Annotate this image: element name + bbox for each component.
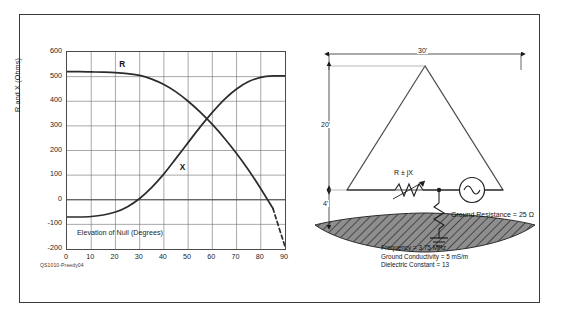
y-tick-label: 400	[22, 95, 62, 104]
x-tick-label: 20	[101, 252, 127, 261]
y-tick-label: 100	[22, 169, 62, 178]
curve-resistance-dashed	[273, 208, 285, 246]
y-axis-title: R and X (Ohms)	[13, 58, 22, 112]
figure-root: 6005004003002001000-100-200 010203040506…	[0, 0, 561, 318]
curve-reactance	[67, 76, 285, 217]
y-tick-label: 300	[22, 120, 62, 129]
impedance-label: R ± jX	[394, 169, 413, 176]
y-tick-label: 200	[22, 145, 62, 154]
figure-credit-code: QS1010-Preedy04	[40, 262, 84, 268]
dimension-label-height: 20'	[320, 121, 331, 128]
specification-text: Frequency = 3.75 MHz Ground Conductivity…	[381, 244, 468, 270]
grid-lines	[67, 52, 285, 249]
x-tick-label: 40	[150, 252, 176, 261]
x-tick-label: 90	[271, 252, 297, 261]
x-tick-label: 10	[77, 252, 103, 261]
y-tick-label: -200	[22, 243, 62, 252]
x-tick-label: 80	[247, 252, 273, 261]
impedance-chart-panel: 6005004003002001000-100-200 010203040506…	[19, 14, 309, 303]
y-tick-label: -100	[22, 218, 62, 227]
chart-plot-svg	[67, 52, 285, 249]
y-tick-label: 500	[22, 71, 62, 80]
curve-label-r: R	[119, 60, 125, 69]
antenna-diagram-panel: 30' 20' 4' R ± jX Ground Resistance = 25…	[309, 14, 540, 303]
x-tick-label: 0	[53, 252, 79, 261]
y-tick-label: 600	[22, 46, 62, 55]
delta-loop-antenna	[347, 66, 503, 190]
curve-resistance	[67, 72, 273, 209]
plot-area	[66, 51, 286, 250]
x-axis-title: Elevation of Null (Degrees)	[77, 228, 163, 237]
x-tick-label: 30	[126, 252, 152, 261]
x-tick-label: 70	[223, 252, 249, 261]
y-tick-label: 0	[22, 194, 62, 203]
dimension-height-20ft	[329, 66, 347, 225]
dimension-width-30ft	[329, 54, 521, 70]
x-tick-label: 60	[198, 252, 224, 261]
dimension-label-base-height: 4'	[322, 200, 329, 207]
curve-label-x: X	[180, 163, 185, 172]
x-tick-label: 50	[174, 252, 200, 261]
dimension-label-width: 30'	[417, 47, 428, 54]
ground-resistance-label: Ground Resistance = 25 Ω	[451, 211, 534, 218]
